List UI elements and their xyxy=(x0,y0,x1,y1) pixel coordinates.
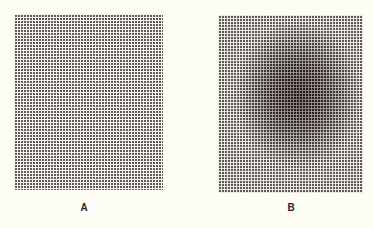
dot-grid-pattern xyxy=(14,14,163,190)
dark-blob-overlay xyxy=(218,15,363,193)
panel-a-label: A xyxy=(74,202,94,213)
panel-b-label: B xyxy=(281,202,301,213)
panel-b-blob-grid xyxy=(218,15,363,193)
panel-a-uniform-grid xyxy=(14,14,163,190)
